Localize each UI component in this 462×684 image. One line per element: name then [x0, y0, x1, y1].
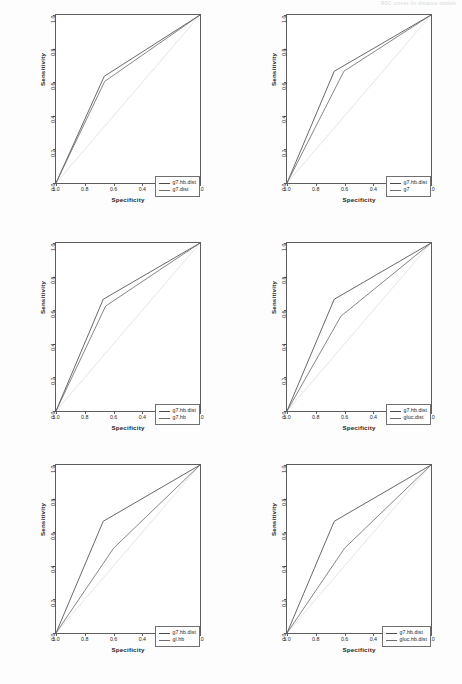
- x-axis-label: Specificity: [55, 196, 201, 203]
- x-tick-label: 0.4: [370, 187, 377, 192]
- roc-figure-page: ROC curves for distance models Sensitivi…: [0, 0, 462, 684]
- legend-line-icon: [159, 640, 170, 641]
- legend-line-icon: [159, 190, 170, 191]
- x-tick-label: 0.8: [312, 637, 319, 642]
- x-axis-label: Specificity: [286, 424, 432, 431]
- legend-item: g7: [390, 187, 428, 194]
- legend-line-icon: [159, 183, 170, 184]
- diagonal-reference-line: [287, 243, 431, 411]
- x-tick-label: 0.6: [110, 187, 117, 192]
- legend-label: g7.hb: [173, 415, 186, 420]
- diagonal-reference-line: [287, 465, 431, 633]
- y-tick-label: 0.2: [50, 600, 55, 607]
- y-tick-label: 0.4: [281, 344, 286, 351]
- y-tick-label: 0.0: [281, 633, 286, 640]
- legend-line-icon: [159, 418, 170, 419]
- legend-label: g7.hb.dist: [173, 180, 197, 185]
- legend-item: gluc.dist: [390, 415, 428, 422]
- y-tick-label: 0.8: [50, 49, 55, 56]
- y-tick-label: 0.0: [281, 411, 286, 418]
- legend: g7.hb.distgluc.hb.dist: [382, 626, 431, 647]
- legend: g7.hb.distgl.hb: [155, 626, 200, 647]
- legend-label: gl.hb: [173, 637, 185, 642]
- y-tick-label: 0.2: [50, 378, 55, 385]
- plot-area: 1.00.80.60.40.20.00.00.20.40.60.81.0: [55, 242, 201, 412]
- roc-panel-middle-right: Sensitivity Specificity 1.00.80.60.40.20…: [231, 236, 462, 458]
- y-tick-label: 0.6: [281, 82, 286, 89]
- y-tick-label: 0.6: [281, 310, 286, 317]
- x-axis-label: Specificity: [55, 424, 201, 431]
- legend: g7.hb.distg7: [386, 176, 431, 197]
- legend-line-icon: [159, 411, 170, 412]
- roc-panel-bottom-left: Sensitivity Specificity 1.00.80.60.40.20…: [0, 458, 231, 680]
- legend-line-icon: [386, 633, 397, 634]
- x-tick-label: 0.6: [110, 415, 117, 420]
- legend-line-icon: [159, 633, 170, 634]
- y-tick-label: 1.0: [50, 15, 55, 22]
- legend-item: g7.dist: [159, 187, 197, 194]
- plot-area: 1.00.80.60.40.20.00.00.20.40.60.81.0: [286, 242, 432, 412]
- x-tick-label: 0.6: [110, 637, 117, 642]
- x-tick-label: 0.8: [81, 415, 88, 420]
- y-tick-label: 1.0: [281, 243, 286, 250]
- x-tick-label: 0.8: [312, 415, 319, 420]
- x-tick-label: 0.4: [139, 187, 146, 192]
- legend-label: gluc.hb.dist: [400, 637, 427, 642]
- y-tick-label: 0.4: [50, 566, 55, 573]
- y-tick-label: 1.0: [50, 465, 55, 472]
- legend-item: gluc.hb.dist: [386, 637, 427, 644]
- legend-label: g7.hb.dist: [404, 180, 428, 185]
- legend-label: g7.hb.dist: [404, 408, 428, 413]
- x-tick-label: 0.4: [370, 415, 377, 420]
- x-tick-label: 0.8: [81, 637, 88, 642]
- roc-panel-bottom-right: Sensitivity Specificity 1.00.80.60.40.20…: [231, 458, 462, 680]
- diagonal-reference-line: [287, 15, 431, 183]
- y-tick-label: 0.0: [50, 633, 55, 640]
- y-tick-label: 0.2: [281, 150, 286, 157]
- y-axis-label: Sensitivity: [270, 488, 277, 552]
- y-axis-label: Sensitivity: [39, 488, 46, 552]
- roc-panel-grid: Sensitivity Specificity 1.00.80.60.40.20…: [0, 8, 462, 680]
- y-tick-label: 0.6: [281, 532, 286, 539]
- roc-curves-svg: [287, 465, 431, 633]
- legend-label: g7.hb.dist: [173, 408, 197, 413]
- y-tick-label: 1.0: [50, 243, 55, 250]
- legend-label: gluc.dist: [404, 415, 424, 420]
- roc-curves-svg: [287, 243, 431, 411]
- y-tick-label: 0.4: [50, 116, 55, 123]
- y-tick-label: 0.6: [50, 310, 55, 317]
- y-axis-label: Sensitivity: [39, 266, 46, 330]
- y-tick-label: 1.0: [281, 15, 286, 22]
- plot-area: 1.00.80.60.40.20.00.00.20.40.60.81.0: [55, 14, 201, 184]
- legend-item: g7.hb: [159, 415, 197, 422]
- header-note: ROC curves for distance models: [381, 1, 456, 6]
- y-tick-label: 0.8: [50, 499, 55, 506]
- x-tick-label: 0.6: [341, 187, 348, 192]
- legend-line-icon: [390, 190, 401, 191]
- y-tick-label: 0.0: [50, 183, 55, 190]
- roc-panel-top-right: Sensitivity Specificity 1.00.80.60.40.20…: [231, 8, 462, 236]
- y-tick-label: 1.0: [281, 465, 286, 472]
- y-tick-label: 0.0: [281, 183, 286, 190]
- y-tick-label: 0.8: [50, 277, 55, 284]
- y-tick-label: 0.4: [281, 116, 286, 123]
- legend-label: g7.hb.dist: [173, 630, 197, 635]
- x-axis-label: Specificity: [55, 646, 201, 653]
- y-tick-label: 0.2: [281, 600, 286, 607]
- plot-area: 1.00.80.60.40.20.00.00.20.40.60.81.0: [286, 464, 432, 634]
- plot-area: 1.00.80.60.40.20.00.00.20.40.60.81.0: [286, 14, 432, 184]
- x-tick-label: 0.4: [370, 637, 377, 642]
- legend-label: g7.dist: [173, 187, 189, 192]
- x-tick-label: 0.4: [139, 415, 146, 420]
- roc-panel-middle-left: Sensitivity Specificity 1.00.80.60.40.20…: [0, 236, 231, 458]
- legend: g7.hb.distg7.dist: [155, 176, 200, 197]
- y-tick-label: 0.2: [281, 378, 286, 385]
- x-tick-label: 0.8: [81, 187, 88, 192]
- diagonal-reference-line: [56, 243, 200, 411]
- diagonal-reference-line: [56, 465, 200, 633]
- y-tick-label: 0.6: [50, 532, 55, 539]
- y-tick-label: 0.2: [50, 150, 55, 157]
- y-axis-label: Sensitivity: [270, 38, 277, 102]
- y-tick-label: 0.8: [281, 277, 286, 284]
- y-tick-label: 0.8: [281, 499, 286, 506]
